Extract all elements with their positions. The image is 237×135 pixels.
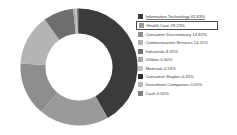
legend-item[interactable]: Utilities 0.60% [137,56,237,64]
legend-item-label: Consumer Discretionary [146,32,192,37]
legend-item[interactable]: Consumer Staples 0.41% [137,73,237,81]
legend-item[interactable]: Communication Services 14.11% [137,39,237,47]
legend-item-value: 0.05% [190,82,202,87]
legend-item-label: Cash [146,91,156,96]
legend-color-swatch [138,66,143,71]
legend-item-label: Materials [146,66,163,71]
donut-chart-area [18,6,140,128]
legend-color-swatch [138,74,143,79]
legend-item[interactable]: Industrials 8.35% [137,47,237,55]
legend-item-label: Health Care [147,23,170,28]
legend-item-text: Materials 0.53% [146,66,177,71]
legend-item-text: Cash 0.00% [146,91,169,96]
legend-color-swatch [139,23,144,28]
legend-item-label: Industrials [146,49,165,54]
legend-item-text: Investment Companies 0.05% [146,82,203,87]
legend-item-value: 14.81% [192,32,206,37]
legend-item[interactable]: Investment Companies 0.05% [137,81,237,89]
legend-item-value: 41.83% [191,14,205,19]
legend-item-label: Investment Companies [146,82,190,87]
legend-item-value: 0.41% [182,74,194,79]
legend-color-swatch [138,82,143,87]
legend-item-value: 14.11% [194,40,208,45]
legend-item-text: Consumer Staples 0.41% [146,74,194,79]
legend-item[interactable]: Materials 0.53% [137,64,237,72]
legend-color-swatch [138,91,143,96]
legend-item-value: 0.00% [157,91,169,96]
legend-color-swatch [138,40,143,45]
legend-item-text: Utilities 0.60% [146,57,173,62]
legend-item-text: Communication Services 14.11% [146,40,208,45]
legend-item-value: 8.35% [166,49,178,54]
legend-item[interactable]: Consumer Discretionary 14.81% [137,30,237,38]
legend-item[interactable]: Cash 0.00% [137,90,237,98]
legend-item-label: Utilities [146,57,160,62]
legend-item-text: Information Technology 41.83% [146,14,206,20]
legend-item-value: 0.60% [160,57,172,62]
legend-color-swatch [138,57,143,62]
chart-legend: Information Technology 41.83%Health Care… [137,13,237,98]
legend-item-text: Industrials 8.35% [146,49,179,54]
legend-color-swatch [138,32,143,37]
donut-chart-svg [18,6,140,128]
legend-item[interactable]: Information Technology 41.83% [137,13,237,21]
donut-center-hole [45,33,112,100]
legend-item-text: Consumer Discretionary 14.81% [146,32,207,37]
legend-color-swatch [138,49,143,54]
legend-item-text: Health Care 19.23% [147,23,185,28]
legend-color-swatch [138,14,143,19]
legend-item-value: 0.53% [164,66,176,71]
legend-item[interactable]: Health Care 19.23% [136,21,218,29]
sector-allocation-donut-chart: Information Technology 41.83%Health Care… [0,0,237,135]
legend-item-value: 19.23% [170,23,184,28]
legend-item-label: Communication Services [146,40,193,45]
legend-item-label: Consumer Staples [146,74,181,79]
legend-item-label: Information Technology [146,14,190,19]
